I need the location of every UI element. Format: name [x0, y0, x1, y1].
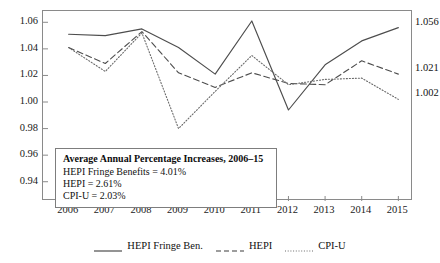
- x-tick-label: 2012: [277, 204, 298, 215]
- y-tick-label: 0.94: [4, 176, 38, 186]
- series-end-label-1: 1.021: [415, 62, 439, 73]
- legend-entry-hepi: HEPI: [216, 240, 272, 251]
- y-axis: 0.940.960.981.001.021.041.06: [0, 0, 38, 263]
- chart-container: 0.940.960.981.001.021.041.06 20062007200…: [0, 0, 440, 263]
- y-tick-label: 1.00: [4, 96, 38, 106]
- legend-line-solid-icon: [94, 241, 122, 249]
- legend-label-hepi: HEPI: [249, 240, 272, 251]
- annotation-line-hepi: HEPI = 2.61%: [63, 178, 269, 190]
- annotation-line-hepi-fringe: HEPI Fringe Benefits = 4.01%: [63, 166, 269, 178]
- series-end-label-0: 1.056: [415, 16, 439, 27]
- legend-entry-cpi-u: CPI-U: [285, 240, 345, 251]
- legend-label-hepi-fringe-ben: HEPI Fringe Ben.: [127, 240, 203, 251]
- series-end-label-2: 1.002: [415, 87, 439, 98]
- legend-line-dashed-icon: [216, 241, 244, 249]
- x-tick-label: 2014: [350, 204, 371, 215]
- series-line-1: [69, 32, 399, 88]
- x-tick-label: 2013: [314, 204, 335, 215]
- y-tick-label: 0.96: [4, 149, 38, 159]
- legend-label-cpi-u: CPI-U: [318, 240, 345, 251]
- y-tick-label: 1.02: [4, 69, 38, 79]
- y-tick-label: 0.98: [4, 123, 38, 133]
- x-tick-label: 2015: [387, 204, 408, 215]
- legend-line-dotted-icon: [285, 241, 313, 249]
- y-tick-label: 1.04: [4, 43, 38, 53]
- series-line-0: [69, 21, 399, 110]
- annotation-title: Average Annual Percentage Increases, 200…: [63, 153, 269, 166]
- chart-legend: HEPI Fringe Ben. HEPI CPI-U: [0, 236, 440, 254]
- annotation-line-cpiu: CPI-U = 2.03%: [63, 190, 269, 202]
- y-tick-label: 1.06: [4, 16, 38, 26]
- annotation-box: Average Annual Percentage Increases, 200…: [55, 148, 277, 208]
- legend-entry-hepi-fringe-ben: HEPI Fringe Ben.: [94, 240, 203, 251]
